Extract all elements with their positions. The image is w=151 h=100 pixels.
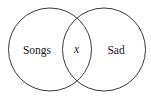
set-label-sad: Sad <box>107 44 125 56</box>
intersection-label: x <box>73 43 80 55</box>
venn-diagram: Songs x Sad <box>0 0 151 100</box>
set-label-songs: Songs <box>23 44 52 57</box>
